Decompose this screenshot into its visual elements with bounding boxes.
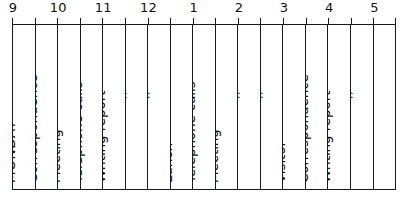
schedule-slot-1700[interactable] [374, 25, 396, 189]
schedule-slot-1530[interactable]: Correspondence [306, 25, 329, 189]
schedule-slot-1430[interactable]: 〃 [261, 25, 284, 189]
schedule-slot-1600[interactable]: Writing report [328, 25, 351, 189]
slot-label: Writing report [328, 91, 332, 183]
hour-label-2: 2 [235, 1, 243, 15]
schedule-slot-930[interactable]: Correspondence [36, 25, 59, 189]
schedule-slot-1300[interactable]: Telephone calls [193, 25, 216, 189]
hour-label-10: 10 [50, 1, 67, 15]
schedule-slot-1400[interactable]: 〃 [238, 25, 261, 189]
schedule-slot-1500[interactable]: Visitor [283, 25, 306, 189]
schedule-slot-1630[interactable]: 〃 [351, 25, 374, 189]
hour-label-11: 11 [95, 1, 112, 15]
slot-label: Meeting [58, 129, 62, 183]
slot-label: Visitor [283, 141, 287, 183]
schedule-slot-1130[interactable]: 〃 [126, 25, 149, 189]
slot-label: 〃 [261, 88, 266, 101]
slot-label: Correspondence [36, 74, 40, 183]
slot-label: 〃 [351, 88, 356, 101]
slot-label: Telephone calls [81, 81, 85, 183]
schedule-slot-1000[interactable]: Meeting [58, 25, 81, 189]
hour-label-3: 3 [280, 1, 288, 15]
hour-label-5: 5 [370, 1, 378, 15]
slot-label: Correspondence [306, 74, 310, 183]
slot-label: 〃 [126, 88, 131, 101]
schedule-slot-1230[interactable]: Lunch [171, 25, 194, 189]
work-schedule-chart: 910111212345 MONDAYCorrespondenceMeeting… [0, 0, 408, 197]
slot-label: Meeting [216, 129, 220, 183]
hour-label-1: 1 [189, 1, 197, 15]
schedule-slot-1100[interactable]: Writing report [103, 25, 126, 189]
schedule-slot-900[interactable]: MONDAY [13, 25, 36, 189]
schedule-slot-1030[interactable]: Telephone calls [81, 25, 104, 189]
hour-label-12: 12 [140, 1, 157, 15]
slot-label: 〃 [148, 88, 153, 101]
schedule-slot-1200[interactable]: 〃 [148, 25, 171, 189]
slot-label: Telephone calls [193, 81, 197, 183]
schedule-slot-1330[interactable]: Meeting [216, 25, 239, 189]
slot-label: Writing report [103, 91, 107, 183]
hour-scale: 910111212345 [0, 0, 408, 20]
schedule-grid: MONDAYCorrespondenceMeetingTelephone cal… [12, 24, 396, 190]
slot-label: 〃 [238, 88, 243, 101]
slot-label: MONDAY [13, 120, 17, 183]
hour-label-9: 9 [9, 1, 17, 15]
hour-label-4: 4 [325, 1, 333, 15]
slot-label: Lunch [171, 143, 175, 183]
